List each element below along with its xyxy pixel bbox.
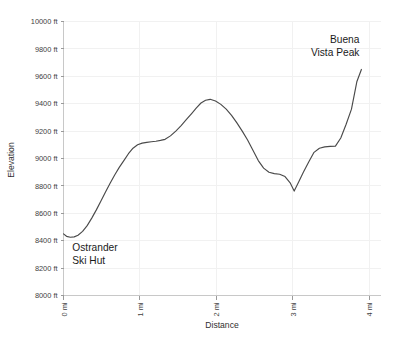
x-axis-title: Distance (205, 320, 239, 330)
annotation-buena-vista-peak-line1: Buena (330, 34, 360, 45)
y-tick-label: 8000 ft (35, 291, 58, 300)
x-tick-label: 0 mi (60, 302, 69, 316)
y-tick-label: 9000 ft (35, 154, 58, 163)
x-tick-label: 1 mi (136, 302, 145, 316)
y-tick-label: 8200 ft (35, 264, 58, 273)
y-axis-title: Elevation (6, 142, 16, 178)
y-tick-label: 8600 ft (35, 209, 58, 218)
y-tick-label: 9800 ft (35, 45, 58, 54)
x-tick-label: 2 mi (212, 302, 221, 316)
y-tick-label: 9600 ft (35, 72, 58, 81)
y-tick-label: 9200 ft (35, 127, 58, 136)
chart-svg: 8000 ft8200 ft8400 ft8600 ft8800 ft9000 … (0, 0, 397, 342)
elevation-chart: 8000 ft8200 ft8400 ft8600 ft8800 ft9000 … (0, 0, 397, 342)
y-tick-label: 9400 ft (35, 99, 58, 108)
y-tick-label: 10000 ft (31, 17, 58, 26)
annotation-ostrander-ski-hut-line1: Ostrander (72, 242, 118, 253)
y-tick-label: 8800 ft (35, 182, 58, 191)
annotation-buena-vista-peak-line2: Vista Peak (311, 47, 360, 58)
y-tick-label: 8400 ft (35, 236, 58, 245)
annotation-ostrander-ski-hut-line2: Ski Hut (72, 255, 105, 266)
x-tick-label: 4 mi (365, 302, 374, 316)
x-tick-label: 3 mi (289, 302, 298, 316)
